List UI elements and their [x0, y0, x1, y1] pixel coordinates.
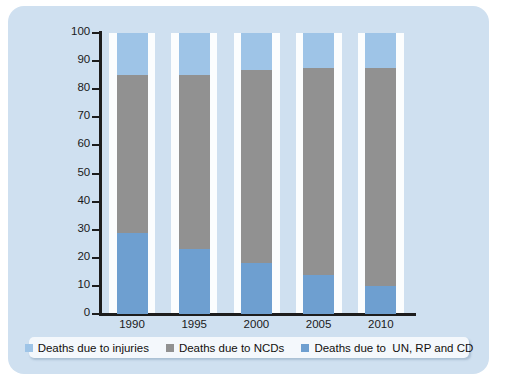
bar-2010[interactable]	[365, 33, 396, 314]
bar-segment[interactable]	[241, 33, 272, 70]
y-axis-tick-label: 0	[48, 306, 90, 318]
bar-segment[interactable]	[117, 75, 148, 232]
bar-segment[interactable]	[179, 75, 210, 249]
bar-1995[interactable]	[179, 33, 210, 314]
y-axis-tick	[92, 32, 99, 34]
y-axis-tick-label: 100	[48, 25, 90, 37]
x-axis-tick-label: 2000	[225, 318, 287, 330]
x-axis-tick-label: 2010	[350, 318, 412, 330]
y-axis-tick	[92, 144, 99, 146]
y-axis-tick	[92, 313, 99, 315]
bar-2005[interactable]	[303, 33, 334, 314]
y-axis-tick	[92, 229, 99, 231]
legend-swatch-icon	[301, 344, 309, 352]
bar-segment[interactable]	[179, 33, 210, 75]
y-axis-tick	[92, 116, 99, 118]
legend-swatch-icon	[25, 344, 33, 352]
legend-label: Deaths due to UN, RP and CD	[314, 342, 473, 354]
legend-item[interactable]: Deaths due to UN, RP and CD	[301, 342, 473, 354]
y-axis-tick-label: 60	[48, 137, 90, 149]
y-axis-tick-label: 30	[48, 222, 90, 234]
x-axis-tick-label: 1990	[101, 318, 163, 330]
legend-swatch-icon	[166, 344, 174, 352]
y-axis-tick	[92, 285, 99, 287]
y-axis-tick	[92, 60, 99, 62]
bar-segment[interactable]	[303, 33, 334, 68]
y-axis-tick-label: 20	[48, 250, 90, 262]
y-axis-tick-label: 50	[48, 166, 90, 178]
y-axis-tick-label: 70	[48, 109, 90, 121]
y-axis-labels: 0102030405060708090100	[44, 0, 90, 388]
y-axis-tick-label: 40	[48, 194, 90, 206]
bar-segment[interactable]	[365, 68, 396, 286]
y-axis-tick-label: 10	[48, 278, 90, 290]
legend-label: Deaths due to injuries	[38, 342, 149, 354]
chart-figure: 0102030405060708090100 19901995200020052…	[0, 0, 505, 388]
legend-item[interactable]: Deaths due to injuries	[25, 342, 149, 354]
y-axis-tick	[92, 201, 99, 203]
legend-label: Deaths due to NCDs	[179, 342, 284, 354]
bar-segment[interactable]	[179, 249, 210, 314]
bar-segment[interactable]	[303, 275, 334, 314]
bar-segment[interactable]	[365, 33, 396, 68]
y-axis-tick-label: 90	[48, 53, 90, 65]
y-axis-tick	[92, 88, 99, 90]
bar-segment[interactable]	[117, 33, 148, 75]
x-axis-tick-label: 1995	[163, 318, 225, 330]
y-axis-tick	[92, 257, 99, 259]
y-axis-line	[99, 31, 102, 316]
bar-segment[interactable]	[117, 233, 148, 314]
y-axis-tick-label: 80	[48, 81, 90, 93]
bar-segment[interactable]	[241, 263, 272, 314]
bar-segment[interactable]	[241, 70, 272, 264]
y-axis-tick	[92, 173, 99, 175]
bar-2000[interactable]	[241, 33, 272, 314]
bar-1990[interactable]	[117, 33, 148, 314]
chart-legend: Deaths due to injuriesDeaths due to NCDs…	[29, 337, 469, 358]
bar-segment[interactable]	[365, 286, 396, 314]
bar-segment[interactable]	[303, 68, 334, 275]
x-axis-tick-label: 2005	[288, 318, 350, 330]
legend-item[interactable]: Deaths due to NCDs	[166, 342, 284, 354]
